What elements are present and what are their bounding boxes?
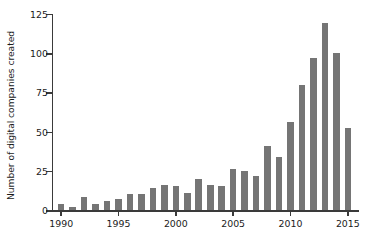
bar <box>150 188 157 210</box>
bar <box>115 199 122 210</box>
y-axis-label-container: Number of digital companies created <box>0 0 22 230</box>
y-tick-label: 100 <box>30 48 48 59</box>
bar <box>104 201 111 210</box>
bar <box>322 23 329 210</box>
bar <box>345 128 352 210</box>
x-tick-mark <box>290 210 291 216</box>
bar <box>241 171 248 210</box>
x-tick-mark <box>60 210 61 216</box>
plot-area: 0255075100125 199019952000200520102015 <box>52 14 357 210</box>
x-tick-mark <box>232 210 233 216</box>
x-tick-label: 1995 <box>107 218 131 229</box>
bar <box>58 204 65 210</box>
bar-series <box>52 14 357 210</box>
x-tick-label: 2010 <box>279 218 303 229</box>
bar <box>127 194 134 210</box>
x-tick-label: 2000 <box>164 218 188 229</box>
bar <box>230 169 237 210</box>
bar <box>276 157 283 210</box>
y-tick-label: 50 <box>36 126 48 137</box>
x-tick-label: 1990 <box>49 218 73 229</box>
bar <box>138 194 145 210</box>
bar <box>195 179 202 210</box>
bar <box>310 58 317 210</box>
bar <box>207 185 214 210</box>
bar <box>333 53 340 210</box>
x-axis-line <box>46 210 359 212</box>
y-tick-label: 125 <box>30 9 48 20</box>
x-tick-mark <box>347 210 348 216</box>
bar <box>287 122 294 210</box>
bar <box>253 176 260 210</box>
bar <box>81 197 88 210</box>
x-tick-label: 2005 <box>221 218 245 229</box>
bar-chart-figure: Number of digital companies created 0255… <box>0 0 373 250</box>
bar <box>299 85 306 210</box>
bar <box>161 185 168 210</box>
y-tick-label: 25 <box>36 165 48 176</box>
bar <box>69 207 76 210</box>
bar <box>218 186 225 210</box>
bar <box>264 146 271 210</box>
y-tick-label: 0 <box>42 205 48 216</box>
y-axis-label: Number of digital companies created <box>6 30 17 199</box>
y-tick-label: 75 <box>36 87 48 98</box>
bar <box>173 186 180 210</box>
bar <box>92 204 99 210</box>
x-tick-mark <box>175 210 176 216</box>
x-tick-mark <box>118 210 119 216</box>
bar <box>184 193 191 210</box>
x-tick-label: 2015 <box>336 218 360 229</box>
